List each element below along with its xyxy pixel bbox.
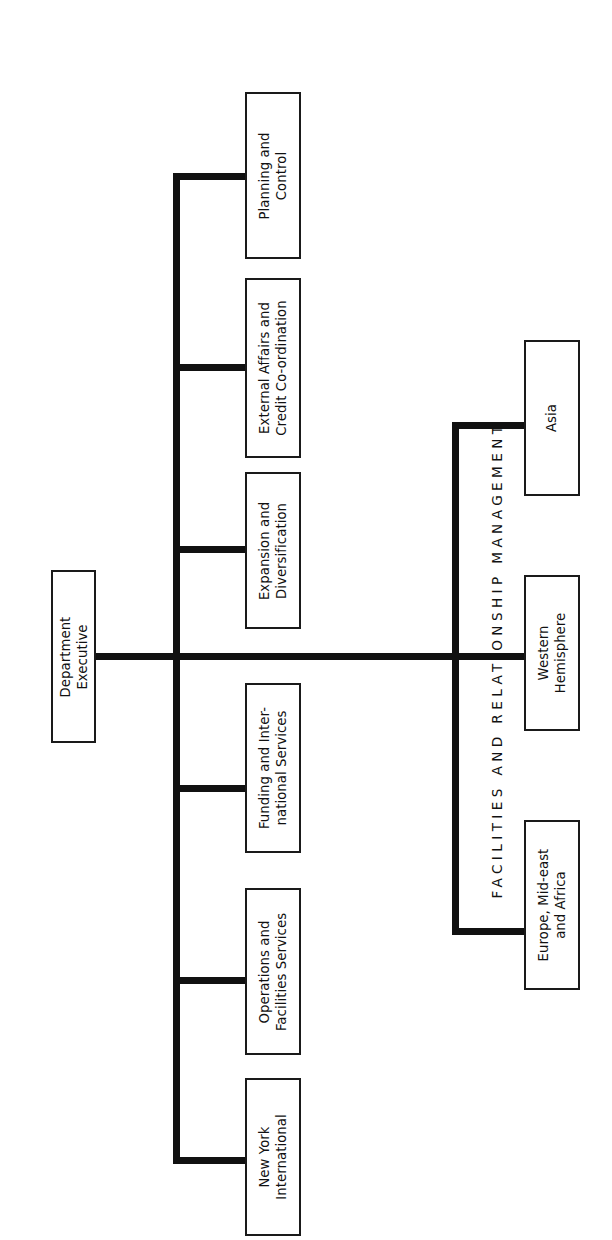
branch-line-external-affairs bbox=[173, 364, 245, 371]
node-funding-and-international-services[interactable]: Funding and Inter- national Services bbox=[245, 683, 301, 853]
node-asia[interactable]: Asia bbox=[524, 340, 580, 496]
branch-line-operations-and-facilities-services bbox=[173, 977, 245, 984]
node-department-executive[interactable]: Department Executive bbox=[51, 570, 96, 743]
node-label-funding-and-international-services: Funding and Inter- national Services bbox=[256, 707, 291, 829]
node-label-europe-mid-east-and-africa: Europe, Mid-east and Africa bbox=[535, 849, 570, 962]
org-chart-canvas: Department Executive Planning and Contro… bbox=[0, 0, 612, 1240]
node-operations-and-facilities-services[interactable]: Operations and Facilities Services bbox=[245, 888, 301, 1055]
branch-line-western-hemisphere bbox=[452, 653, 524, 660]
node-label-western-hemisphere: Western Hemisphere bbox=[535, 613, 570, 694]
node-planning-and-control[interactable]: Planning and Control bbox=[245, 92, 301, 259]
node-label-asia: Asia bbox=[543, 404, 560, 432]
branch-line-funding-and-international-services bbox=[173, 785, 245, 792]
node-label-operations-and-facilities-services: Operations and Facilities Services bbox=[256, 912, 291, 1030]
branch-line-new-york-international bbox=[173, 1157, 245, 1164]
branch-line-expansion-and-diversification bbox=[173, 546, 245, 553]
node-new-york-international[interactable]: New York International bbox=[245, 1078, 301, 1236]
right-spine-line bbox=[452, 422, 459, 935]
node-label-external-affairs-and-credit-co-ordination: External Affairs and Credit Co-ordinatio… bbox=[256, 300, 291, 435]
branch-line-europe-mid-east-and-africa bbox=[452, 928, 524, 935]
node-external-affairs-and-credit-co-ordination[interactable]: External Affairs and Credit Co-ordinatio… bbox=[245, 278, 301, 458]
branch-line-asia bbox=[452, 422, 524, 429]
node-label-new-york-international: New York International bbox=[256, 1114, 291, 1199]
node-label-expansion-and-diversification: Expansion and Diversification bbox=[256, 501, 291, 599]
left-spine-line bbox=[173, 173, 180, 1164]
node-label-department-executive: Department Executive bbox=[56, 616, 91, 697]
branch-line-planning-and-control bbox=[173, 173, 245, 180]
main-trunk-line bbox=[95, 653, 457, 660]
node-expansion-and-diversification[interactable]: Expansion and Diversification bbox=[245, 472, 301, 629]
node-label-planning-and-control: Planning and Control bbox=[256, 132, 291, 219]
node-western-hemisphere[interactable]: Western Hemisphere bbox=[524, 575, 580, 731]
section-heading-facilities-and-relationship-management: FACILITIES AND RELATIONSHIP MANAGEMENT bbox=[489, 380, 505, 940]
node-europe-mid-east-and-africa[interactable]: Europe, Mid-east and Africa bbox=[524, 820, 580, 990]
